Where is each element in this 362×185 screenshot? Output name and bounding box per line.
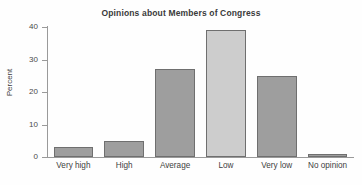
bar-low [206,30,246,157]
y-tick-label: 30 [0,56,38,64]
y-tick-mark [42,92,47,93]
plot-area [48,27,353,157]
x-label-low: Low [201,162,252,170]
x-label-no-opinion: No opinion [302,162,353,170]
y-tick-label: 40 [0,23,38,31]
bar-chart-figure: Opinions about Members of Congress Perce… [0,0,362,185]
x-label-average: Average [150,162,201,170]
bar-very-high [54,147,94,157]
bar-very-low [257,76,297,157]
chart-title: Opinions about Members of Congress [0,8,362,18]
x-label-very-high: Very high [48,162,99,170]
y-tick-label: 10 [0,121,38,129]
y-tick-mark [42,27,47,28]
bar-average [155,69,195,157]
x-axis-line [47,157,354,158]
x-label-very-low: Very low [251,162,302,170]
x-label-high: High [99,162,150,170]
y-tick-mark [42,157,47,158]
y-tick-label: 20 [0,88,38,96]
y-tick-mark [42,125,47,126]
bar-high [104,141,144,157]
bar-no-opinion [308,154,348,157]
y-tick-label: 0 [0,153,38,161]
y-tick-mark [42,60,47,61]
